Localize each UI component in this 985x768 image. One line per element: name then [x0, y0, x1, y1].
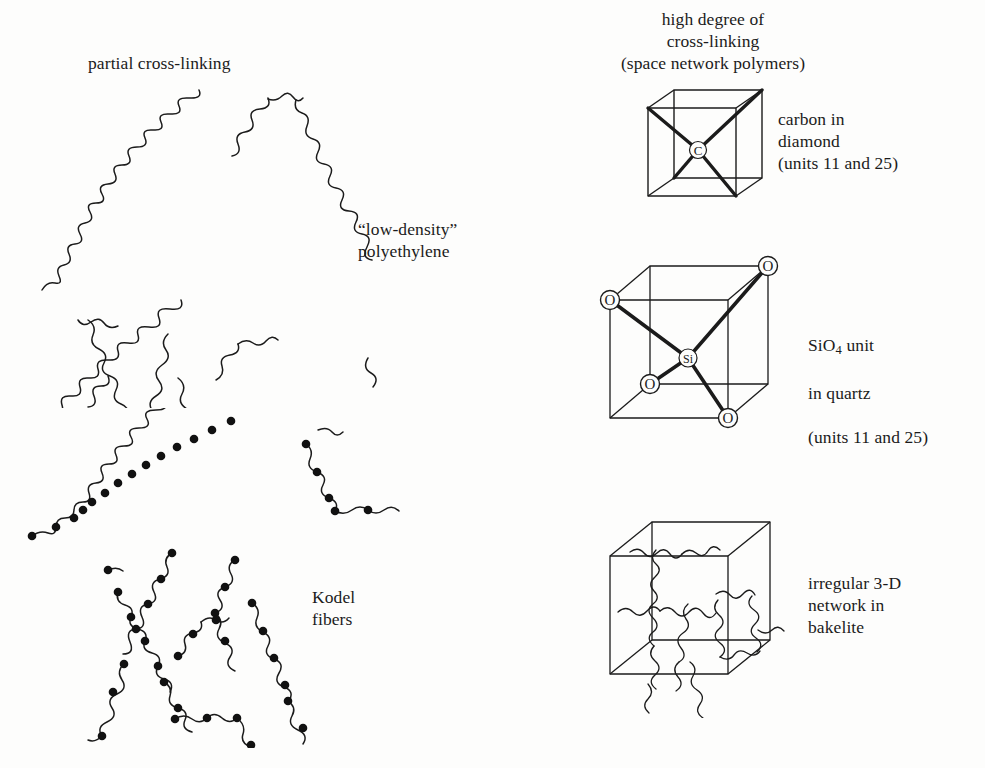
quartz-center-atom: Si [679, 349, 697, 367]
figure-low-density-polyethylene [0, 78, 400, 408]
chain-kodel-upper [32, 408, 203, 536]
chain-branch-top-right [232, 98, 269, 156]
label-low-density-polyethylene: “low-density” polyethylene [358, 218, 457, 262]
chain-right-tail [366, 358, 376, 387]
bakelite-network-chains [618, 547, 784, 718]
chain-mid-connector [88, 320, 133, 408]
chain-central-descend [144, 334, 168, 408]
oxygen-atom: O [719, 409, 738, 428]
bakelite-chain [678, 604, 688, 662]
label-partial-cross-linking: partial cross-linking [88, 52, 231, 74]
quartz-cube-edges [610, 266, 768, 418]
diamond-center-atom: C [690, 142, 707, 159]
bakelite-chain [758, 627, 784, 633]
figure-kodel-fibers [20, 408, 420, 748]
chain-kodel-central-2 [288, 701, 305, 744]
bakelite-chain [645, 684, 652, 713]
label-high-degree-cross-linking: high degree of cross-linking (space netw… [568, 8, 858, 75]
chain-main-lower [8, 300, 182, 408]
diamond-bonds [648, 90, 762, 196]
bakelite-chain [749, 596, 761, 652]
figure-carbon-in-diamond: C [640, 84, 770, 209]
diamond-center-atom-label: C [694, 143, 703, 158]
chain-kodel-bottom-stub [178, 622, 202, 656]
oxygen-atom-label: O [645, 376, 656, 392]
bakelite-chain [651, 646, 659, 689]
quartz-oxygen-atoms: O O O O [601, 257, 778, 428]
oxygen-atom-label: O [723, 410, 734, 426]
chain-branch-top-right-2 [268, 93, 303, 101]
figure-irregular-network-bakelite [600, 508, 810, 718]
bakelite-chain [716, 590, 755, 598]
chain-main-upper [42, 90, 200, 290]
quartz-center-atom-label: Si [683, 352, 694, 366]
sio4-line-2: in quartz [808, 383, 871, 403]
sio4-line-3: (units 11 and 25) [808, 427, 928, 447]
bakelite-cube-edges [610, 522, 770, 674]
sio4-line-1: SiO4 unit [808, 335, 874, 355]
bakelite-chain [682, 547, 720, 556]
diagram-canvas: partial cross-linking [0, 0, 985, 768]
label-irregular-network-bakelite: irregular 3-D network in bakelite [808, 572, 901, 639]
oxygen-atom: O [601, 291, 620, 310]
chain-lower-stub [88, 376, 109, 407]
kodel-chains [32, 408, 399, 748]
oxygen-atom: O [641, 375, 660, 394]
bakelite-chain [690, 662, 703, 718]
oxygen-atom-label: O [605, 292, 616, 308]
label-sio4-in-quartz: SiO4 unit in quartz (units 11 and 25) [808, 312, 928, 448]
bakelite-chain [618, 607, 660, 615]
chain-lowermid-descend [178, 378, 205, 408]
bakelite-chain [649, 550, 659, 646]
label-kodel-fibers: Kodel fibers [312, 586, 355, 630]
chain-kodel-left-descend-2 [100, 664, 124, 736]
chain-upper-short-branch [216, 344, 239, 380]
oxygen-atom: O [759, 257, 778, 276]
bakelite-chain [660, 608, 716, 618]
quartz-bonds [610, 266, 768, 418]
figure-sio4-in-quartz: Si O O O O [598, 252, 808, 467]
bakelite-chain [675, 662, 681, 691]
oxygen-atom-label: O [763, 258, 774, 274]
chain-bottom-tail [78, 319, 118, 327]
kodel-nodes [28, 417, 373, 748]
bakelite-chain [715, 600, 725, 657]
chain-kodel-upper-tail [318, 428, 343, 435]
chain-upper-short-branch-2 [238, 337, 278, 345]
label-carbon-in-diamond: carbon in diamond (units 11 and 25) [778, 108, 898, 175]
